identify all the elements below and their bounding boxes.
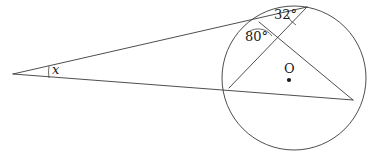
geometry-canvas [0,0,368,157]
circle-center-label: O [284,62,295,75]
circle-center-dot [287,78,291,82]
angle-label-32: 32° [274,8,297,21]
chord-upper-to-right [259,22,353,100]
angle-label-80: 80° [245,30,268,43]
circle-outline [222,6,366,150]
lower-secant-line [13,74,353,100]
angle-label-x: x [52,63,59,76]
geometry-diagram: 80° 32° x O [0,0,368,157]
